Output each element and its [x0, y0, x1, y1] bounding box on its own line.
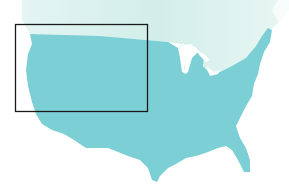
us-map [0, 0, 289, 194]
map-title: Continental United States with highlight… [0, 0, 209, 9]
